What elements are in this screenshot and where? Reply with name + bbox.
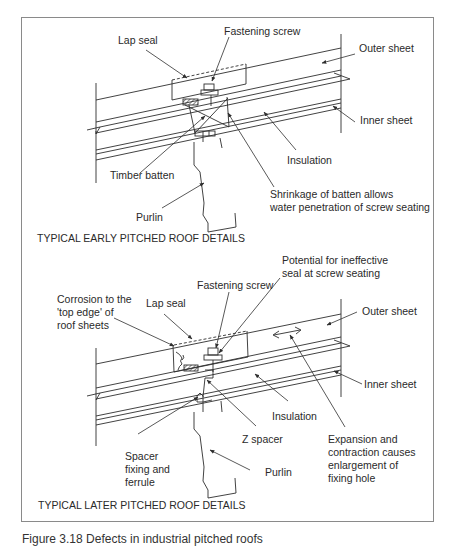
label-corrosion-line3: roof sheets: [57, 319, 109, 332]
label-lap-seal-early: Lap seal: [118, 34, 158, 47]
label-expansion-line3: enlargement of: [328, 459, 398, 472]
label-insulation-early: Insulation: [287, 154, 332, 167]
label-potential-line1: Potential for ineffective: [282, 254, 388, 267]
label-outer-sheet-later: Outer sheet: [362, 305, 417, 318]
label-expansion-line4: fixing hole: [328, 472, 375, 485]
label-expansion-line1: Expansion and: [328, 433, 397, 446]
label-timber-batten-early: Timber batten: [110, 169, 174, 182]
label-z-spacer: Z spacer: [242, 433, 283, 446]
label-inner-sheet-early: Inner sheet: [360, 114, 413, 127]
early-section-title: TYPICAL EARLY PITCHED ROOF DETAILS: [37, 232, 245, 245]
label-corrosion-line2: 'top edge' of: [57, 306, 114, 319]
label-purlin-later: Purlin: [265, 466, 292, 479]
label-spacer-line3: ferrule: [125, 476, 155, 489]
label-insulation-later: Insulation: [272, 410, 317, 423]
label-spacer-line2: fixing and: [125, 463, 170, 476]
label-inner-sheet-later: Inner sheet: [364, 378, 417, 391]
label-fastening-screw-later: Fastening screw: [197, 279, 273, 292]
label-fastening-screw-early: Fastening screw: [224, 25, 300, 38]
label-shrinkage-line1: Shrinkage of batten allows: [270, 188, 393, 201]
label-corrosion-line1: Corrosion to the: [57, 293, 132, 306]
label-spacer-line1: Spacer: [125, 450, 158, 463]
figure-caption: Figure 3.18 Defects in industrial pitche…: [22, 532, 263, 546]
label-expansion-line2: contraction causes: [328, 446, 416, 459]
later-section-title: TYPICAL LATER PITCHED ROOF DETAILS: [38, 499, 246, 512]
label-outer-sheet-early: Outer sheet: [359, 42, 414, 55]
label-purlin-early: Purlin: [136, 211, 163, 224]
label-lap-seal-later: Lap seal: [146, 297, 186, 310]
label-shrinkage-line2: water penetration of screw seating: [270, 201, 430, 214]
label-potential-line2: seal at screw seating: [282, 267, 380, 280]
